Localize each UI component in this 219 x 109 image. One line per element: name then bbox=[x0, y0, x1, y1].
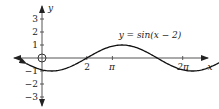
y-tick-label: 2 bbox=[32, 27, 38, 37]
function-label: y = sin(x − 2) bbox=[118, 30, 182, 40]
function-graph: 3 2 1 −1 −2 −3 2 π 2π y x y = sin(x − 2) bbox=[0, 0, 219, 109]
y-tick-label: 3 bbox=[32, 14, 38, 24]
x-tick-label: π bbox=[108, 62, 116, 72]
y-tick-label: −2 bbox=[25, 79, 38, 89]
x-tick-label: 2 bbox=[84, 62, 90, 72]
y-tick-label: −3 bbox=[25, 92, 39, 102]
y-axis-label: y bbox=[47, 3, 54, 13]
y-tick-label: 1 bbox=[32, 40, 38, 50]
